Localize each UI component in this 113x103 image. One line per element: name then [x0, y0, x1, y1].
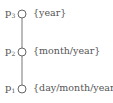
node-p2-circle — [18, 48, 26, 56]
node-p2-text: {month/year} — [33, 46, 100, 56]
node-p3-label: p3 — [5, 8, 15, 21]
node-p1-circle — [18, 85, 26, 93]
node-p2-label-sub: 2 — [11, 50, 15, 57]
node-p3-circle — [18, 10, 26, 18]
node-p1-label-sub: 1 — [11, 87, 15, 94]
node-p3-label-sub: 3 — [11, 12, 15, 19]
node-p2-label: p2 — [5, 46, 15, 59]
node-p3-text: {year} — [33, 8, 66, 18]
node-p1-label: p1 — [5, 83, 15, 96]
node-p1-text: {day/month/year} — [33, 83, 113, 93]
